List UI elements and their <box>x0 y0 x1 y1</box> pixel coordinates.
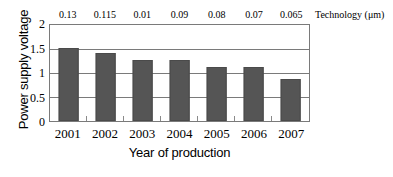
secondary-axis-tick-label: 0.07 <box>235 8 272 22</box>
secondary-axis-tick-label: 0.13 <box>49 8 86 22</box>
x-axis-tick-label: 2007 <box>273 126 310 142</box>
secondary-axis-tick-label: 0.065 <box>273 8 310 22</box>
secondary-axis-tick-label: 0.09 <box>161 8 198 22</box>
x-axis-tick-label: 2006 <box>235 126 272 142</box>
secondary-axis-tick-label: 0.08 <box>198 8 235 22</box>
secondary-axis-tick-labels: 0.130.1150.010.090.080.070.065 <box>49 8 310 22</box>
x-axis-tick-label: 2003 <box>124 126 161 142</box>
bar-slot <box>198 25 235 121</box>
secondary-axis-tick-label: 0.115 <box>86 8 123 22</box>
bar-slot <box>87 25 124 121</box>
bar-slot <box>50 25 87 121</box>
x-axis-title: Year of production <box>49 145 310 160</box>
bar-slot <box>161 25 198 121</box>
bar-slot <box>124 25 161 121</box>
x-axis-tick-label: 2002 <box>86 126 123 142</box>
y-axis-tick-label: 1.5 <box>30 43 45 55</box>
y-axis-tick-label: 1 <box>39 67 45 79</box>
bar-series <box>50 25 309 121</box>
bar[interactable] <box>206 67 227 121</box>
bar[interactable] <box>95 53 116 121</box>
y-axis-tick-label: 0 <box>39 116 45 128</box>
x-axis-tick-label: 2004 <box>161 126 198 142</box>
bar[interactable] <box>132 60 153 121</box>
bar[interactable] <box>280 79 301 121</box>
secondary-axis-tick-label: 0.01 <box>124 8 161 22</box>
bar-slot <box>272 25 309 121</box>
x-axis-tick-label: 2001 <box>49 126 86 142</box>
plot-area <box>49 24 310 122</box>
x-axis-tick-labels: 2001200220032004200520062007 <box>49 126 310 142</box>
y-axis-tick-label: 2 <box>39 18 45 30</box>
y-axis-tick-label: 0.5 <box>30 92 45 104</box>
bar-chart: Power supply voltage 00.511.52 0.130.115… <box>0 0 393 177</box>
x-axis-tick-label: 2005 <box>198 126 235 142</box>
bar[interactable] <box>58 48 79 121</box>
bar[interactable] <box>243 67 264 121</box>
secondary-axis-title: Technology (μm) <box>315 8 384 22</box>
y-axis-tick-labels: 00.511.52 <box>12 24 45 122</box>
bar[interactable] <box>169 60 190 121</box>
bar-slot <box>235 25 272 121</box>
